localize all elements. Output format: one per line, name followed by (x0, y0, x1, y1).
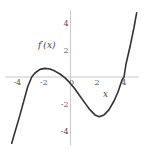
y-tick-label: -4 (61, 127, 69, 136)
x-tick-label: -4 (13, 78, 21, 87)
x-tick-label: -2 (40, 78, 48, 87)
y-tick-label: 4 (63, 19, 68, 28)
y-tick-label: 2 (63, 46, 68, 55)
x-axis-label: x (103, 89, 108, 99)
y-axis-label: f′(x) (37, 40, 56, 50)
derivative-plot: -4-2024 42-2-4 f′(x) x (0, 0, 147, 150)
x-tick-label: 2 (95, 78, 100, 87)
f-prime-curve (12, 13, 137, 144)
y-tick-label: -2 (61, 100, 69, 109)
